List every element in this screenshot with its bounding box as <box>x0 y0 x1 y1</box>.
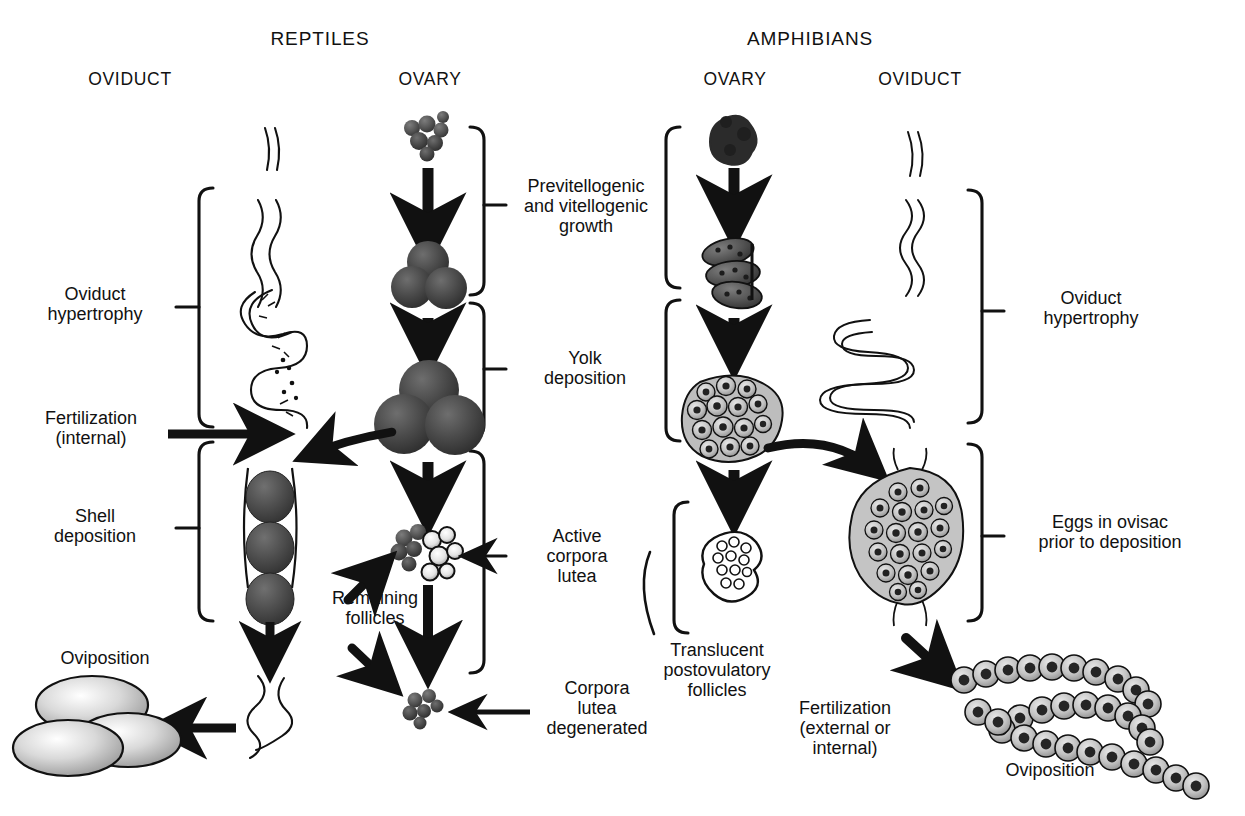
bracket-active-corpora-lutea <box>470 451 506 673</box>
reptile-oviduct-relaxed <box>247 676 292 758</box>
group-label-amphibians: AMPHIBIANS <box>700 28 920 49</box>
label-eggs-in-ovisac: Eggs in ovisac prior to deposition <box>1000 512 1220 552</box>
bracket-reptile-shell-deposition <box>176 442 213 621</box>
label-translucent-postovulatory: Translucent postovulatory follicles <box>632 640 802 700</box>
header-amphibian-oviduct: OVIDUCT <box>845 70 995 90</box>
amphibian-postovulatory-follicles <box>702 532 761 602</box>
arrow-ovulation-curve <box>306 432 392 456</box>
amphibian-yolk-laden-ovary <box>682 375 783 462</box>
amphibian-oviduct-thin <box>908 132 923 176</box>
bracket-amphibian-oviduct-hypertrophy <box>968 190 1004 423</box>
amphibian-oviduct-coiled <box>820 320 914 428</box>
bracket-amphibian-previtellogenic <box>666 127 680 288</box>
label-reptile-fertilization: Fertilization (internal) <box>12 408 170 448</box>
reptile-oviduct-thin <box>265 128 279 170</box>
label-reptile-shell-deposition: Shell deposition <box>20 506 170 546</box>
bracket-postovulatory-follicles <box>674 502 688 633</box>
label-amphibian-oviposition: Oviposition <box>960 760 1140 780</box>
deposited-reptile-eggs <box>13 676 181 776</box>
arrow-amphibian-ovulation-curve <box>768 443 878 472</box>
bracket-reptile-oviduct-hypertrophy <box>176 188 213 427</box>
label-amphibian-oviduct-hypertrophy: Oviduct hypertrophy <box>1006 288 1176 328</box>
label-amphibian-fertilization: Fertilization (external or internal) <box>760 698 930 758</box>
amphibian-oviduct-wavy <box>900 200 924 296</box>
label-reptile-oviduct-hypertrophy: Oviduct hypertrophy <box>20 284 170 324</box>
label-remaining-follicles: Remaining follicles <box>300 588 450 628</box>
bracket-amphibian-yolk <box>666 300 680 441</box>
label-yolk-deposition: Yolk deposition <box>510 348 660 388</box>
bracket-previtellogenic <box>470 127 506 295</box>
bracket-yolk-deposition <box>470 303 506 438</box>
figure-canvas: REPTILES AMPHIBIANS OVIDUCT OVARY OVARY … <box>0 0 1245 816</box>
curve-postovulatory-pointer <box>644 552 654 634</box>
degenerated-corpora-lutea <box>403 689 444 730</box>
reptile-oviduct-wavy <box>252 200 281 307</box>
amphibian-previtellogenic-mass <box>710 116 757 165</box>
header-reptile-ovary: OVARY <box>355 70 505 90</box>
amphibian-vitellogenic-lobes <box>700 234 764 311</box>
reptile-oviduct-convoluted <box>241 290 307 428</box>
label-reptile-oviposition: Oviposition <box>30 648 180 668</box>
header-reptile-oviduct: OVIDUCT <box>50 70 210 90</box>
reptile-previtellogenic-cluster <box>404 111 449 162</box>
reptile-vitellogenic-triad <box>391 241 467 309</box>
arrow-amphibian-oviposition <box>906 638 952 680</box>
amphibian-ovisac <box>849 448 963 626</box>
label-active-corpora-lutea: Active corpora lutea <box>512 526 642 586</box>
reptile-oviduct-secretions <box>259 294 297 416</box>
arrow-remaining-follicles-down <box>352 648 392 686</box>
bracket-eggs-in-ovisac <box>968 444 1004 621</box>
reptile-yolk-laden-triad <box>374 360 485 455</box>
group-label-reptiles: REPTILES <box>230 28 410 49</box>
active-corpora-lutea-cluster <box>391 524 464 581</box>
header-amphibian-ovary: OVARY <box>660 70 810 90</box>
reptile-oviduct-with-eggs <box>244 468 297 625</box>
label-previtellogenic-growth: Previtellogenic and vitellogenic growth <box>506 176 666 236</box>
